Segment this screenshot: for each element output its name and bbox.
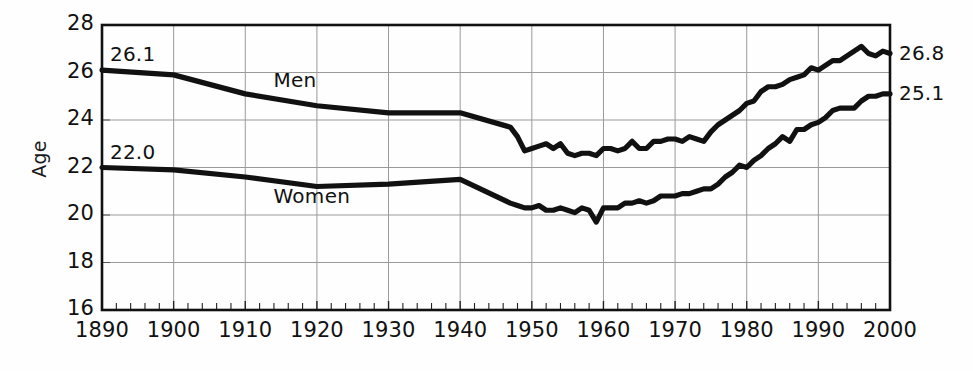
women-end-value: 25.1 bbox=[899, 81, 944, 105]
x-tick-1900: 1900 bbox=[139, 318, 209, 342]
x-tick-1960: 1960 bbox=[568, 318, 638, 342]
men-start-value: 26.1 bbox=[110, 42, 155, 66]
x-tick-1920: 1920 bbox=[282, 318, 352, 342]
x-tick-1990: 1990 bbox=[783, 318, 853, 342]
x-tick-1970: 1970 bbox=[640, 318, 710, 342]
series-line-women bbox=[102, 94, 890, 222]
x-tick-1980: 1980 bbox=[712, 318, 782, 342]
women-start-value: 22.0 bbox=[110, 140, 155, 164]
gridlines bbox=[102, 25, 890, 310]
y-axis-tick-labels: 16182022242628 bbox=[42, 0, 94, 371]
y-tick-18: 18 bbox=[52, 249, 94, 273]
y-tick-28: 28 bbox=[52, 11, 94, 35]
x-tick-1950: 1950 bbox=[497, 318, 567, 342]
y-tick-24: 24 bbox=[52, 106, 94, 130]
x-tick-2000: 2000 bbox=[855, 318, 925, 342]
x-tick-1940: 1940 bbox=[425, 318, 495, 342]
x-tick-1890: 1890 bbox=[67, 318, 137, 342]
x-axis-minor-ticks bbox=[102, 301, 890, 310]
y-tick-20: 20 bbox=[52, 201, 94, 225]
men-series-label: Men bbox=[273, 68, 316, 92]
y-tick-16: 16 bbox=[52, 296, 94, 320]
series-line-men bbox=[102, 46, 890, 155]
x-tick-1910: 1910 bbox=[210, 318, 280, 342]
marriage-age-line-chart: Age 16182022242628 189019001910192019301… bbox=[0, 0, 973, 371]
x-tick-1930: 1930 bbox=[354, 318, 424, 342]
y-tick-26: 26 bbox=[52, 59, 94, 83]
y-tick-22: 22 bbox=[52, 154, 94, 178]
women-series-label: Women bbox=[273, 184, 350, 208]
men-end-value: 26.8 bbox=[899, 41, 944, 65]
